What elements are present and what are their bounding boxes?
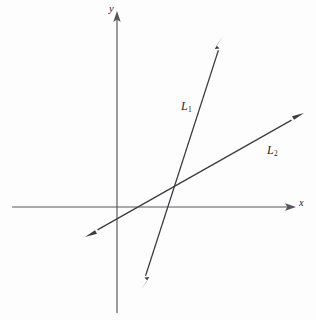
line-l2-label: L2 <box>267 144 278 158</box>
line-l1 <box>146 50 219 276</box>
line-l2-label-subscript: 2 <box>274 149 278 158</box>
line-l2 <box>98 120 292 230</box>
line-l1-arrowhead-top <box>215 36 223 49</box>
line-l1-arrowhead-bottom <box>141 277 149 290</box>
line-l2-arrowhead-left <box>85 228 99 237</box>
figure-canvas: y x L1 L2 <box>0 0 316 320</box>
x-axis-label: x <box>299 198 304 209</box>
coordinate-plane-svg <box>0 0 316 320</box>
line-l1-label-subscript: 1 <box>188 105 192 114</box>
line-l2-label-letter: L <box>267 143 274 157</box>
line-l1-label-letter: L <box>181 99 188 113</box>
line-l2-arrowhead-right <box>290 113 304 122</box>
line-l1-label: L1 <box>181 100 192 114</box>
y-axis-label: y <box>109 4 114 15</box>
